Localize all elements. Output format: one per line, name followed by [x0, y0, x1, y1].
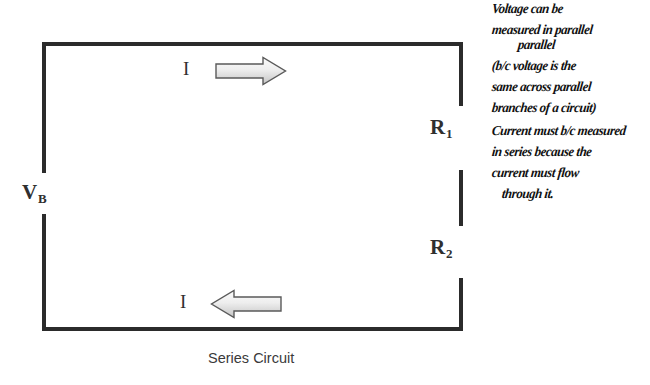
note-line: branches of a circuit) [491, 101, 647, 115]
circuit-diagram-page: VB R1 R2 I I [0, 0, 650, 385]
note-block-voltage: Voltage can be measured in parallel para… [492, 2, 647, 114]
wire-left-upper [42, 42, 46, 173]
resistor1-label-subscript: 1 [446, 126, 453, 141]
current-arrow-right-icon [215, 56, 287, 86]
resistor2-label-text: R [430, 235, 445, 259]
resistor1-label-text: R [430, 115, 445, 139]
wire-bottom [42, 327, 463, 331]
note-block-current: Current must b/c measured in series beca… [492, 124, 647, 200]
note-line: through it. [491, 187, 647, 201]
note-line: same across parallel [491, 80, 647, 94]
diagram-caption: Series Circuit [208, 350, 294, 366]
battery-label-text: V [22, 180, 37, 204]
current-arrow-left-icon [210, 289, 282, 319]
handwritten-notes: Voltage can be measured in parallel para… [492, 2, 647, 210]
note-line: current must flow [491, 166, 647, 180]
wire-top [42, 42, 463, 46]
wire-right-lower [459, 278, 463, 331]
resistor2-label: R2 [430, 235, 452, 260]
resistor1-label: R1 [430, 115, 452, 140]
note-line: Voltage can be [491, 2, 647, 16]
battery-label: VB [22, 180, 46, 205]
note-line: measured in parallel [491, 23, 647, 37]
wire-right-middle [459, 170, 463, 226]
resistor2-label-subscript: 2 [446, 246, 453, 261]
wire-left-lower [42, 214, 46, 331]
note-line: Current must b/c measured [491, 124, 647, 138]
current-bottom-label: I [180, 291, 186, 313]
note-line: (b/c voltage is the [491, 59, 647, 73]
wire-right-upper [459, 42, 463, 106]
note-line: in series because the [491, 145, 647, 159]
battery-label-subscript: B [38, 191, 47, 206]
note-line: parallel [491, 38, 647, 52]
current-top-label: I [183, 58, 189, 80]
